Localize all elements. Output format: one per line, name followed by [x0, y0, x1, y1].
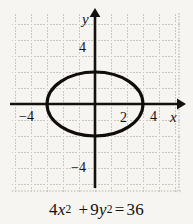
caption-var-y: y [99, 200, 107, 220]
caption-plus-operator: + [77, 200, 91, 220]
y-tick-label-neg4: −4 [71, 160, 86, 175]
x-tick-label-4: 4 [150, 109, 157, 124]
coordinate-plane: y x 4 −4 −4 2 4 [0, 0, 193, 196]
x-tick-label-neg4: −4 [19, 109, 34, 124]
caption-right-hand-side: 36 [127, 200, 144, 220]
caption-coef-x: 4 [49, 200, 58, 220]
caption-var-x: x [58, 200, 66, 220]
equation-caption: 4x2+9y2=36 [0, 196, 193, 224]
y-tick-label-4: 4 [79, 40, 86, 55]
x-tick-label-2: 2 [120, 110, 127, 125]
x-axis-label: x [169, 109, 177, 125]
caption-coef-y: 9 [90, 200, 99, 220]
graph-svg: y x 4 −4 −4 2 4 [0, 0, 193, 196]
caption-equals-operator: = [113, 200, 127, 220]
figure-panel: y x 4 −4 −4 2 4 4x2+9y2=36 [0, 0, 193, 224]
y-axis-label: y [80, 11, 89, 27]
